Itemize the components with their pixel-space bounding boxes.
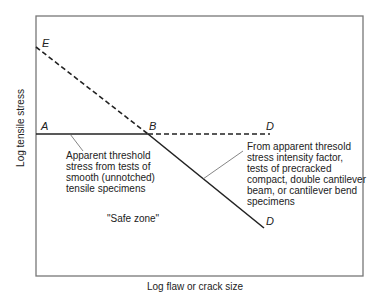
leader-left (70, 134, 83, 151)
note-right: From apparent thresold stress intensity … (247, 141, 369, 207)
point-d-dashed-label: D (266, 120, 274, 132)
x-axis-label: Log flaw or crack size (147, 281, 244, 292)
point-b-label: B (149, 120, 156, 132)
diagram: E A B D D Apparent threshold stress from… (0, 0, 380, 295)
line-e-b-dashed (36, 47, 148, 134)
leader-right (203, 151, 243, 179)
y-axis-label: Log tensile stress (15, 89, 26, 167)
point-d-solid-label: D (266, 215, 274, 227)
note-left: Apparent threshold stress from tests of … (66, 150, 158, 194)
point-e-label: E (42, 37, 50, 49)
point-a-label: A (40, 120, 48, 132)
safe-zone-label: "Safe zone" (107, 213, 160, 224)
